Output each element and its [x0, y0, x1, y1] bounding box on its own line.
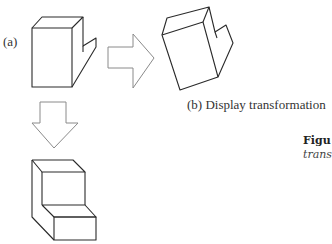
figure-caption-subtitle: trans [303, 148, 332, 161]
down-arrow-icon [32, 102, 78, 148]
transformed-object-shape [32, 160, 96, 240]
right-arrow-icon [108, 34, 154, 88]
original-object-shape [32, 17, 96, 87]
figure-caption-title: Figu [303, 134, 331, 147]
rotated-object-shape [162, 7, 233, 90]
label-a: (a) [3, 34, 17, 50]
label-display-transformation: (b) Display transformation [187, 97, 326, 113]
